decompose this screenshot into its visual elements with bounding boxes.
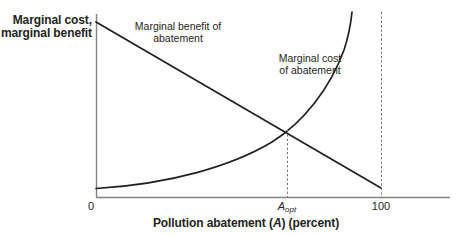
y-axis-title-line1: Marginal cost, bbox=[13, 13, 92, 27]
marginal-cost-label-line2: of abatement bbox=[279, 64, 340, 76]
marginal-benefit-label-line1: Marginal benefit of bbox=[135, 20, 221, 32]
figure-marginal-cost-benefit-abatement: Marginal cost,marginal benefit Pollution… bbox=[0, 0, 464, 237]
x-tick-aopt-base: A bbox=[278, 200, 285, 212]
marginal-cost-label-line1: Marginal cost bbox=[279, 52, 341, 64]
x-axis-title-pre: Pollution abatement ( bbox=[153, 216, 273, 230]
marginal-cost-curve-label: Marginal costof abatement bbox=[254, 53, 366, 77]
x-tick-label-zero: 0 bbox=[88, 200, 94, 212]
y-axis-title-line2: marginal benefit bbox=[1, 26, 92, 40]
x-tick-label-hundred: 100 bbox=[356, 200, 406, 212]
marginal-benefit-curve bbox=[96, 22, 381, 188]
x-tick-aopt-subscript: opt bbox=[285, 205, 296, 214]
x-axis-title-post: ) (percent) bbox=[281, 216, 339, 230]
y-axis-title: Marginal cost,marginal benefit bbox=[0, 14, 92, 41]
marginal-benefit-label-line2: abatement bbox=[153, 32, 203, 44]
marginal-benefit-curve-label: Marginal benefit ofabatement bbox=[112, 21, 244, 45]
x-axis-title: Pollution abatement (A) (percent) bbox=[96, 217, 396, 230]
x-tick-label-aopt: Aopt bbox=[262, 200, 312, 215]
